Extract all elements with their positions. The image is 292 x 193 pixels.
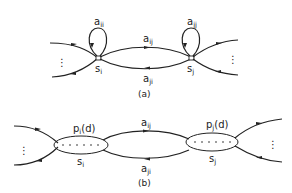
edge-a-ij bbox=[100, 47, 191, 57]
label-a-ji: aji bbox=[143, 73, 153, 86]
edge-a-ij bbox=[103, 131, 189, 140]
node-label-s-i: si bbox=[77, 156, 84, 169]
dots-s-i bbox=[62, 144, 99, 146]
edge-a-ji bbox=[100, 59, 191, 69]
duration-label-p-j: pj(d) bbox=[206, 119, 229, 132]
diagram-b: ⋮ pi(d) si aij aji bbox=[14, 117, 282, 188]
caption-b: (b) bbox=[138, 178, 151, 188]
label-a-ii: aii bbox=[94, 16, 104, 29]
dots-s-j bbox=[194, 141, 231, 143]
label-a-ji: aji bbox=[141, 163, 151, 176]
node-label-s-j: sj bbox=[209, 153, 216, 166]
node-label-s-i: si bbox=[95, 63, 102, 76]
diagram-a: ⋮ aii si aij aji ajj bbox=[50, 16, 238, 99]
ellipsis-left: ⋮ bbox=[57, 57, 67, 68]
self-loop-jj bbox=[182, 28, 199, 56]
node-s-i bbox=[54, 136, 108, 154]
label-a-jj: ajj bbox=[187, 16, 197, 29]
ellipsis-right: ⋮ bbox=[268, 139, 278, 150]
duration-label-p-i: pi(d) bbox=[73, 123, 96, 136]
ellipsis-left: ⋮ bbox=[19, 145, 29, 156]
label-a-ij: aij bbox=[141, 117, 151, 130]
edge-out-right-top bbox=[235, 119, 282, 138]
state-diagram: ⋮ aii si aij aji ajj bbox=[0, 0, 292, 193]
edge-a-ji bbox=[103, 150, 189, 158]
arrow-icon bbox=[144, 46, 150, 49]
self-loop-ii bbox=[89, 28, 106, 56]
ellipsis-right: ⋮ bbox=[228, 54, 238, 65]
node-label-s-j: sj bbox=[187, 63, 194, 76]
caption-a: (a) bbox=[138, 89, 151, 99]
edge-in-left-top bbox=[50, 43, 98, 58]
label-a-ij: aij bbox=[143, 33, 153, 46]
